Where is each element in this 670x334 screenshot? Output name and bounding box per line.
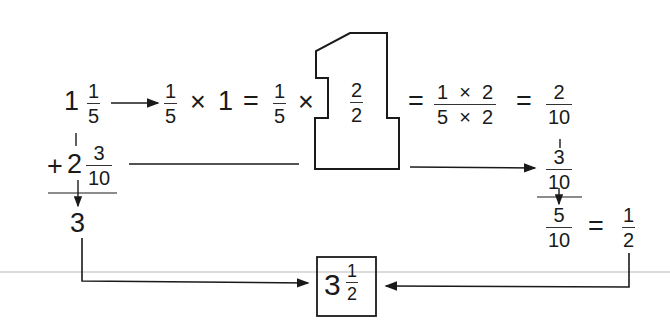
equals-sign: = [243,88,259,115]
plus-sign: + [47,153,63,180]
mixed2-fraction: 310 [88,143,110,188]
final-fraction: 12 [346,262,358,303]
mixed1-whole: 1 [64,88,79,115]
final-whole: 3 [324,270,341,300]
arrow-right-2 [410,167,535,168]
sum-fraction: 510 [548,205,570,250]
times-sign-2: × [298,89,314,116]
simplified-fraction: 12 [622,205,635,250]
big-one-fraction: 22 [350,80,363,125]
carried-fraction: 310 [548,147,570,192]
mixed1-fraction: 15 [87,81,100,126]
step1-fraction: 15 [164,81,177,126]
mixed2-whole: 2 [67,151,82,178]
equals-sign-2: = [408,88,424,115]
one-value: 1 [218,88,233,115]
times-sign: × [190,89,206,116]
step2-fraction: 15 [273,81,286,126]
sum-whole: 3 [70,210,85,237]
product-fraction: 1 × 25 × 2 [436,82,494,127]
result-fraction: 210 [548,82,570,127]
equals-sign-3: = [516,88,532,115]
simplify-equals: = [588,213,604,240]
